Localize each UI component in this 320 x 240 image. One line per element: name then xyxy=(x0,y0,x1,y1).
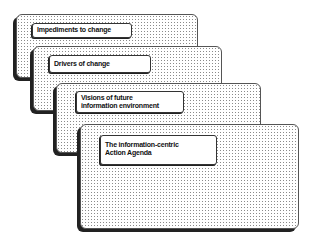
card-agenda: The information-centric Action Agenda xyxy=(80,124,299,229)
label-agenda: The information-centric Action Agenda xyxy=(100,135,217,165)
label-vision-line-1: Visions of future xyxy=(81,94,179,102)
label-agenda-line-1: The information-centric xyxy=(105,141,212,149)
label-agenda-line-2: Action Agenda xyxy=(105,149,212,157)
label-impediments: Impediments to change xyxy=(32,23,132,38)
label-drivers-line-1: Drivers of change xyxy=(54,60,146,68)
label-vision: Visions of future information environmen… xyxy=(76,91,184,113)
label-vision-line-2: information environment xyxy=(81,102,179,110)
label-impediments-line-1: Impediments to change xyxy=(37,26,127,34)
label-drivers: Drivers of change xyxy=(49,55,151,73)
